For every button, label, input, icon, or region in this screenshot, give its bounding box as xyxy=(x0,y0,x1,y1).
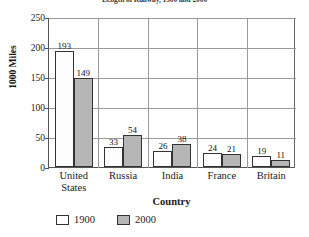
x-axis-tick-label: United States xyxy=(49,170,98,193)
bar-value-label: 193 xyxy=(57,41,71,51)
y-axis-tick-label: 50 xyxy=(15,133,45,143)
chart-title: Length of Railway, 1900 and 2000 xyxy=(0,0,309,4)
bar-value-label: 54 xyxy=(128,125,137,135)
legend-label: 1900 xyxy=(74,214,95,225)
bar-pair: 193149 xyxy=(49,17,98,167)
bar-1900[interactable]: 33 xyxy=(104,147,123,167)
bar-value-label: 33 xyxy=(109,137,118,147)
bar-pair: 2638 xyxy=(148,17,197,167)
bar-value-label: 24 xyxy=(208,143,217,153)
bar-group: 2638India xyxy=(148,17,197,167)
legend-item-1900[interactable]: 1900 xyxy=(56,214,95,225)
x-axis-tick-label: France xyxy=(197,170,246,182)
bar-value-label: 11 xyxy=(276,150,285,160)
legend-swatch-icon xyxy=(56,215,69,225)
bar-1900[interactable]: 19 xyxy=(252,156,271,167)
plot-inner: 050100150200250193149United States3354Ru… xyxy=(49,18,295,167)
legend-item-2000[interactable]: 2000 xyxy=(117,214,156,225)
bar-value-label: 19 xyxy=(257,146,266,156)
plot-area: 050100150200250193149United States3354Ru… xyxy=(48,18,295,168)
bar-group: 193149United States xyxy=(49,17,98,167)
y-axis-tick-label: 200 xyxy=(15,43,45,53)
bar-group: 1911Britain xyxy=(247,17,296,167)
bar-2000[interactable]: 38 xyxy=(172,144,191,167)
bar-1900[interactable]: 24 xyxy=(203,153,222,167)
bar-2000[interactable]: 21 xyxy=(222,154,241,167)
y-axis-tick-label: 150 xyxy=(15,73,45,83)
bar-pair: 1911 xyxy=(247,17,296,167)
y-axis-tick-label: 0 xyxy=(15,163,45,173)
bar-chart-figure: Length of Railway, 1900 and 2000 1000 Mi… xyxy=(0,0,309,237)
bar-group: 3354Russia xyxy=(98,17,147,167)
bar-pair: 2421 xyxy=(197,17,246,167)
x-axis-title: Country xyxy=(48,196,295,207)
bar-group: 2421France xyxy=(197,17,246,167)
x-axis-tick-label: India xyxy=(148,170,197,182)
chart-legend: 19002000 xyxy=(48,214,295,225)
bar-value-label: 38 xyxy=(177,134,186,144)
bar-2000[interactable]: 11 xyxy=(271,160,290,167)
bar-1900[interactable]: 193 xyxy=(55,51,74,167)
legend-label: 2000 xyxy=(135,214,156,225)
bar-value-label: 26 xyxy=(158,141,167,151)
legend-swatch-icon xyxy=(117,215,130,225)
x-axis-tick-label: Russia xyxy=(98,170,147,182)
x-axis-tick-label: Britain xyxy=(247,170,296,182)
y-axis-tick-label: 250 xyxy=(15,13,45,23)
bar-value-label: 21 xyxy=(227,144,236,154)
bar-1900[interactable]: 26 xyxy=(153,151,172,167)
bar-2000[interactable]: 149 xyxy=(74,78,93,167)
bar-pair: 3354 xyxy=(98,17,147,167)
y-axis-tick-mark xyxy=(45,168,49,169)
bar-value-label: 149 xyxy=(76,68,90,78)
bar-2000[interactable]: 54 xyxy=(123,135,142,167)
y-axis-title: 1000 Miles xyxy=(8,27,18,107)
y-axis-tick-label: 100 xyxy=(15,103,45,113)
